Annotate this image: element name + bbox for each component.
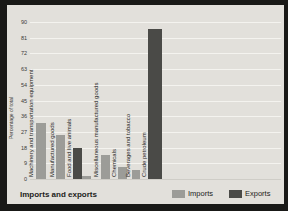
- category-label: Miscellaneous manufactured goods: [93, 83, 100, 177]
- y-tick-label: 90: [11, 19, 27, 25]
- bar-imports: [36, 123, 46, 179]
- y-axis-title: Percentage of total: [9, 97, 14, 139]
- category-label: Crude petroleum: [141, 132, 148, 177]
- bar-exports: [148, 29, 162, 179]
- y-tick-label: 54: [11, 82, 27, 88]
- bar-imports: [56, 135, 65, 179]
- gridline: [30, 22, 281, 23]
- y-tick-label: 0: [11, 176, 27, 182]
- exports-legend-swatch: [229, 190, 242, 198]
- chart-figure: 90817263544536271890Machinery and transp…: [0, 0, 288, 211]
- y-tick-label: 72: [11, 50, 27, 56]
- x-axis-baseline: [30, 179, 281, 180]
- chart-title: Imports and exports: [20, 190, 97, 199]
- category-label: Chemicals: [111, 149, 118, 177]
- category-label: Food and live animals: [66, 119, 73, 177]
- imports-legend-label: Imports: [188, 190, 213, 198]
- exports-legend-label: Exports: [245, 190, 270, 198]
- y-tick-label: 9: [11, 160, 27, 166]
- category-label: Machinery and transportation equipment: [28, 70, 35, 177]
- bar-exports: [73, 148, 82, 179]
- category-label: Beverages and tobacco: [125, 114, 132, 177]
- y-tick-label: 81: [11, 35, 27, 41]
- bar-imports: [82, 176, 91, 179]
- category-label: Manufactured goods: [49, 122, 56, 177]
- y-tick-label: 18: [11, 145, 27, 151]
- bar-imports: [132, 170, 140, 179]
- bar-imports: [101, 155, 110, 179]
- y-tick-label: 63: [11, 66, 27, 72]
- imports-legend-swatch: [172, 190, 185, 198]
